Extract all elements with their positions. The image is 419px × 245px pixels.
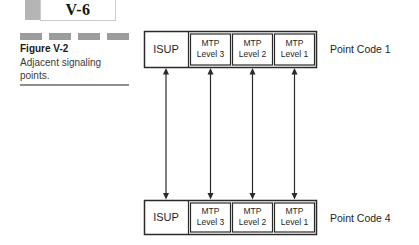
mtp-level2-line2: Level 2 (239, 49, 267, 59)
mtp-level1-line2: Level 1 (281, 217, 309, 227)
isup-cell-label: ISUP (153, 43, 179, 55)
mtp-level3-line2: Level 3 (197, 49, 225, 59)
mtp-level3-line1: MTP (202, 38, 220, 48)
mtp-level3-line2: Level 3 (197, 217, 225, 227)
link-arrow (163, 68, 169, 200)
link-arrow (292, 68, 298, 200)
arrowhead-down-icon (292, 193, 298, 200)
mtp-level1-line1: MTP (286, 38, 304, 48)
link-arrow (250, 68, 256, 200)
arrowhead-up-icon (208, 68, 214, 75)
stack-point-code-4: ISUP MTP Level 3 MTP Level 2 MTP Level 1… (145, 201, 391, 235)
arrowhead-up-icon (250, 68, 256, 75)
mtp-level1-line1: MTP (286, 206, 304, 216)
mtp-level2-line2: Level 2 (239, 217, 267, 227)
mtp-level2-line1: MTP (244, 38, 262, 48)
arrowhead-down-icon (163, 193, 169, 200)
mtp-level3-line1: MTP (202, 206, 220, 216)
arrowhead-up-icon (163, 68, 169, 75)
arrowhead-down-icon (250, 193, 256, 200)
mtp-level1-line2: Level 1 (281, 49, 309, 59)
point-code-1-label: Point Code 1 (330, 43, 391, 55)
arrowhead-down-icon (208, 193, 214, 200)
signaling-points-diagram: ISUP MTP Level 3 MTP Level 2 MTP Level 1… (0, 0, 419, 245)
arrowhead-up-icon (292, 68, 298, 75)
point-code-4-label: Point Code 4 (330, 212, 391, 224)
link-arrow (208, 68, 214, 200)
stack-point-code-1: ISUP MTP Level 3 MTP Level 2 MTP Level 1… (145, 32, 391, 68)
mtp-level2-line1: MTP (244, 206, 262, 216)
signaling-link-arrows (163, 68, 298, 200)
scanned-page: V-6 Figure V-2 Adjacent signaling points… (0, 0, 419, 245)
isup-cell-label: ISUP (153, 211, 179, 223)
